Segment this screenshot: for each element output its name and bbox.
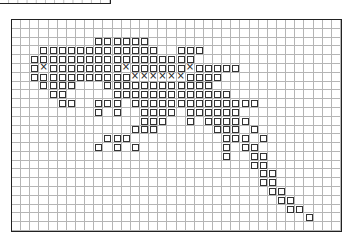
grid-cell [277,108,286,117]
grid-cell [85,222,94,231]
grid-cell [332,196,341,205]
grid-cell-square [195,90,204,99]
grid-cell [213,152,222,161]
grid-cell-square [167,99,176,108]
grid-cell-square [94,99,103,108]
grid-cell [186,126,195,135]
grid-cell [167,126,176,135]
grid-cell [76,99,85,108]
grid-cell-square [85,55,94,64]
grid-cell [67,152,76,161]
grid-cell [58,187,67,196]
grid-cell [314,178,323,187]
grid-cell [277,205,286,214]
grid-cell [12,64,21,73]
grid-cell-square [204,64,213,73]
grid-cell [103,117,112,126]
grid-cell-square [58,46,67,55]
grid-cell [259,64,268,73]
grid-cell [140,205,149,214]
grid-cell [113,196,122,205]
grid-cell [250,20,259,29]
grid-cell [177,134,186,143]
grid-cell [131,187,140,196]
grid-cell [332,55,341,64]
grid-cell [277,38,286,47]
grid-cell-square [186,99,195,108]
grid-cell [268,117,277,126]
grid-cell [259,117,268,126]
grid-cell [186,143,195,152]
grid-cell [213,134,222,143]
grid-cell-square [204,99,213,108]
grid-cell [30,134,39,143]
grid-cell-square [186,46,195,55]
grid-cell-square [204,108,213,117]
grid-cell-square [67,73,76,82]
grid-cell [94,152,103,161]
grid-cell-square [177,55,186,64]
grid-cell [277,99,286,108]
grid-cell [58,38,67,47]
grid-cell [122,126,131,135]
grid-cell [21,90,30,99]
grid-cell [231,82,240,91]
grid-cell [12,38,21,47]
grid-cell [332,99,341,108]
grid-cell [30,143,39,152]
grid-cell-square [277,196,286,205]
grid-cell [295,38,304,47]
grid-cell-square [113,90,122,99]
grid-cell [186,213,195,222]
grid-cell [67,108,76,117]
grid-cell [295,82,304,91]
grid-cell [76,117,85,126]
grid-cell [103,152,112,161]
grid-cell [323,73,332,82]
grid-cell [58,20,67,29]
grid-cell [304,108,313,117]
grid-cell [85,99,94,108]
grid-cell [195,55,204,64]
grid-cell [177,29,186,38]
grid-cell [85,169,94,178]
grid-cell-square [250,126,259,135]
grid-cell [30,161,39,170]
grid-cell-square [113,134,122,143]
grid-cell [204,134,213,143]
grid-cell [85,152,94,161]
grid-cell-square [131,55,140,64]
grid-cell [240,126,249,135]
grid-cell [167,222,176,231]
grid-cell [158,143,167,152]
grid-cell [286,161,295,170]
grid-cell [167,134,176,143]
grid-cell [295,46,304,55]
grid-cell [186,134,195,143]
grid-cell [58,205,67,214]
grid-cell [67,187,76,196]
grid-cell [250,38,259,47]
grid-cell [113,222,122,231]
grid-cell [240,187,249,196]
grid-cell [277,178,286,187]
grid-cell [314,196,323,205]
grid-cell [295,99,304,108]
grid-cell [277,134,286,143]
grid-cell [231,90,240,99]
grid-cell [314,169,323,178]
grid-cell-square [213,90,222,99]
grid-cell [204,55,213,64]
grid-cell [323,90,332,99]
grid-cell [149,143,158,152]
grid-cell [76,90,85,99]
grid-cell [295,196,304,205]
grid-cell [58,161,67,170]
grid-cell [131,117,140,126]
grid-cell [103,196,112,205]
grid-cell [204,161,213,170]
grid-cell [204,46,213,55]
grid-cell [149,20,158,29]
grid-cell [332,20,341,29]
grid-cell [332,38,341,47]
